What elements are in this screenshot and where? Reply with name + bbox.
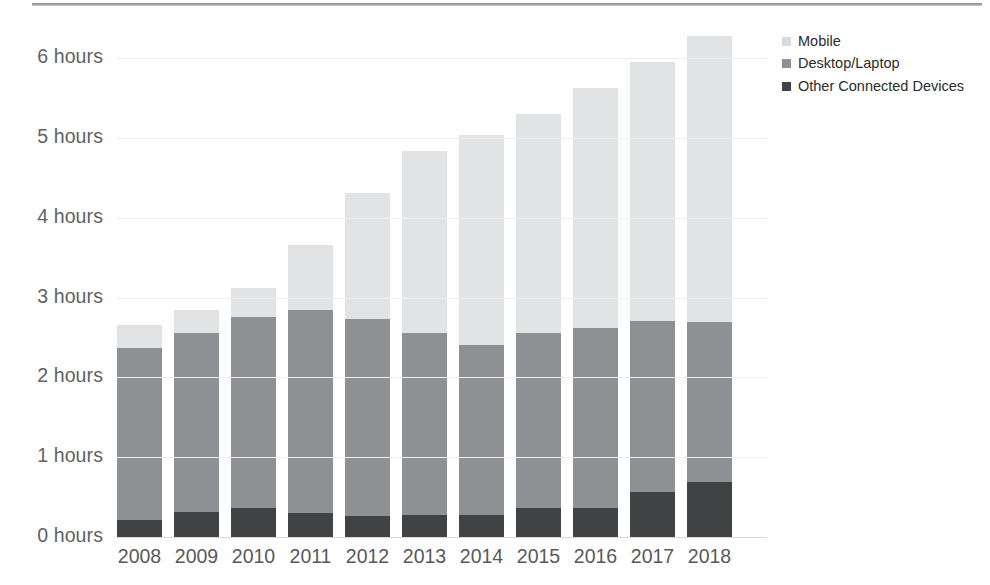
y-axis-tick-label: 3 hours (37, 285, 103, 308)
bar-2012[interactable] (345, 193, 390, 537)
x-axis-label-2011: 2011 (288, 545, 333, 568)
legend-item-other-connected-devices[interactable]: Other Connected Devices (782, 76, 987, 96)
legend-item-label: Desktop/Laptop (798, 56, 900, 71)
bar-segment-2012-mobile[interactable] (345, 193, 390, 319)
x-axis-label-2015: 2015 (516, 545, 561, 568)
bar-2016[interactable] (573, 88, 618, 537)
bar-segment-2008-desktop-laptop[interactable] (117, 348, 162, 520)
bar-2018[interactable] (687, 36, 732, 537)
legend-item-mobile[interactable]: Mobile (782, 31, 987, 51)
bar-segment-2013-desktop-laptop[interactable] (402, 333, 447, 515)
gridline-5h (117, 138, 767, 139)
bar-2014[interactable] (459, 135, 504, 537)
bar-segment-2014-mobile[interactable] (459, 135, 504, 345)
x-axis-label-2013: 2013 (402, 545, 447, 568)
y-axis-tick-label: 1 hours (37, 444, 103, 467)
y-axis-tick-label: 5 hours (37, 125, 103, 148)
bar-segment-2010-mobile[interactable] (231, 288, 276, 317)
legend-swatch-icon (782, 37, 791, 46)
x-axis-label-2014: 2014 (459, 545, 504, 568)
bar-segment-2008-other-connected-devices[interactable] (117, 520, 162, 537)
bar-segment-2010-other-connected-devices[interactable] (231, 508, 276, 537)
bar-segment-2016-other-connected-devices[interactable] (573, 508, 618, 537)
y-axis-tick-label: 4 hours (37, 205, 103, 228)
chart-legend: MobileDesktop/LaptopOther Connected Devi… (782, 31, 987, 99)
bar-segment-2017-mobile[interactable] (630, 62, 675, 321)
bar-segment-2016-mobile[interactable] (573, 88, 618, 327)
x-axis-label-2012: 2012 (345, 545, 390, 568)
x-axis-label-2009: 2009 (174, 545, 219, 568)
bar-2011[interactable] (288, 245, 333, 537)
gridline-3h (117, 298, 767, 299)
bar-segment-2013-other-connected-devices[interactable] (402, 515, 447, 537)
bar-segment-2017-other-connected-devices[interactable] (630, 492, 675, 537)
bar-segment-2009-mobile[interactable] (174, 310, 219, 333)
bar-2017[interactable] (630, 62, 675, 537)
bar-2009[interactable] (174, 310, 219, 537)
x-axis-label-2018: 2018 (687, 545, 732, 568)
legend-swatch-icon (782, 59, 791, 68)
bar-segment-2011-desktop-laptop[interactable] (288, 310, 333, 514)
legend-item-desktop-laptop[interactable]: Desktop/Laptop (782, 54, 987, 74)
bar-segment-2009-other-connected-devices[interactable] (174, 512, 219, 537)
x-axis-label-2010: 2010 (231, 545, 276, 568)
bar-2015[interactable] (516, 114, 561, 537)
gridline-0h (117, 537, 767, 538)
y-axis-tick-label: 0 hours (37, 524, 103, 547)
gridline-1h (117, 457, 767, 458)
bar-segment-2014-desktop-laptop[interactable] (459, 345, 504, 516)
x-axis-label-2016: 2016 (573, 545, 618, 568)
y-axis-tick-label: 2 hours (37, 364, 103, 387)
legend-item-label: Other Connected Devices (798, 79, 964, 94)
x-axis-label-2008: 2008 (117, 545, 162, 568)
bar-2008[interactable] (117, 325, 162, 537)
bar-segment-2010-desktop-laptop[interactable] (231, 317, 276, 509)
bar-segment-2018-mobile[interactable] (687, 36, 732, 323)
bar-segment-2014-other-connected-devices[interactable] (459, 515, 504, 537)
bar-segment-2015-other-connected-devices[interactable] (516, 508, 561, 537)
bar-2013[interactable] (402, 151, 447, 537)
gridline-6h (117, 58, 767, 59)
bar-segment-2013-mobile[interactable] (402, 151, 447, 334)
y-axis-tick-label: 6 hours (37, 45, 103, 68)
bar-segment-2018-other-connected-devices[interactable] (687, 482, 732, 537)
bar-segment-2012-desktop-laptop[interactable] (345, 319, 390, 516)
gridline-2h (117, 377, 767, 378)
bars-container (117, 0, 767, 585)
bar-segment-2011-mobile[interactable] (288, 245, 333, 310)
bar-segment-2011-other-connected-devices[interactable] (288, 513, 333, 537)
gridline-4h (117, 218, 767, 219)
bar-segment-2008-mobile[interactable] (117, 325, 162, 348)
bar-segment-2015-mobile[interactable] (516, 114, 561, 333)
legend-swatch-icon (782, 82, 791, 91)
bar-segment-2017-desktop-laptop[interactable] (630, 321, 675, 493)
y-axis: 0 hours1 hours2 hours3 hours4 hours5 hou… (0, 0, 117, 585)
bar-segment-2012-other-connected-devices[interactable] (345, 516, 390, 537)
bar-segment-2015-desktop-laptop[interactable] (516, 333, 561, 509)
x-axis-label-2017: 2017 (630, 545, 675, 568)
media-time-stacked-bar-chart: 0 hours1 hours2 hours3 hours4 hours5 hou… (0, 0, 990, 585)
bar-2010[interactable] (231, 288, 276, 537)
bar-segment-2016-desktop-laptop[interactable] (573, 328, 618, 508)
bar-segment-2009-desktop-laptop[interactable] (174, 333, 219, 512)
legend-item-label: Mobile (798, 34, 841, 49)
